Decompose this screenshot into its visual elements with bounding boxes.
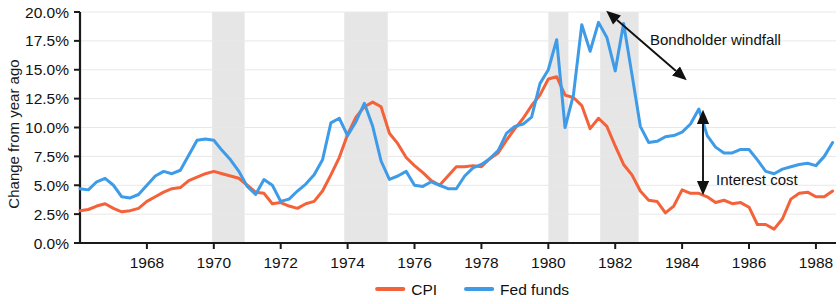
- data-series-group: [80, 22, 833, 229]
- y-axis-tick-label: 17.5%: [25, 32, 69, 49]
- series-line-cpi: [80, 77, 833, 229]
- x-axis-tick-label: 1984: [665, 254, 700, 271]
- x-axis-tick-label: 1986: [732, 254, 766, 271]
- y-axis-tick-label: 10.0%: [25, 119, 69, 136]
- legend-label: Fed funds: [500, 281, 569, 298]
- y-axis-tick-label: 7.5%: [34, 148, 70, 165]
- x-axis-tick-label: 1972: [263, 254, 297, 271]
- y-axis-tick-label: 20.0%: [25, 4, 69, 21]
- x-axis-tick-labels: 1968197019721974197619781980198219841986…: [130, 254, 834, 271]
- annotation-bondholder-windfall: Bondholder windfall: [617, 20, 781, 71]
- chart-container: 0.0%2.5%5.0%7.5%10.0%12.5%15.0%17.5%20.0…: [0, 0, 840, 304]
- y-axis-tick-labels: 0.0%2.5%5.0%7.5%10.0%12.5%15.0%17.5%20.0…: [25, 4, 69, 252]
- x-axis-tick-label: 1974: [330, 254, 365, 271]
- x-axis-tick-label: 1982: [598, 254, 632, 271]
- y-axis-tick-label: 12.5%: [25, 90, 69, 107]
- x-axis-tick-label: 1970: [197, 254, 232, 271]
- line-chart: 0.0%2.5%5.0%7.5%10.0%12.5%15.0%17.5%20.0…: [0, 0, 840, 304]
- y-axis-tick-label: 0.0%: [34, 235, 70, 252]
- x-axis-tick-label: 1978: [464, 254, 498, 271]
- x-axis-tick-label: 1968: [130, 254, 164, 271]
- chart-legend: CPIFed funds: [377, 281, 569, 298]
- y-axis-tick-label: 15.0%: [25, 61, 69, 78]
- x-axis: [80, 243, 836, 249]
- x-axis-tick-label: 1988: [799, 254, 833, 271]
- y-axis: [74, 12, 80, 243]
- x-axis-tick-label: 1980: [531, 254, 566, 271]
- y-axis-title: Change from year ago: [5, 59, 22, 208]
- x-axis-tick-label: 1976: [397, 254, 431, 271]
- y-axis-tick-label: 5.0%: [34, 177, 70, 194]
- legend-label: CPI: [411, 281, 437, 298]
- bondholder-windfall-label: Bondholder windfall: [650, 31, 781, 48]
- y-axis-tick-label: 2.5%: [34, 206, 70, 223]
- interest-cost-label: Interest cost: [716, 171, 799, 188]
